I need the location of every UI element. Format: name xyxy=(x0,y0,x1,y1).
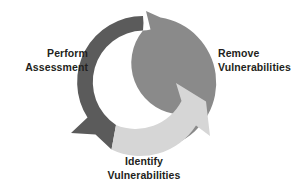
label-identify-vulnerabilities: Identify Vulnerabilities xyxy=(88,155,200,182)
label-remove-vulnerabilities-line2: Vulnerabilities xyxy=(218,61,304,75)
label-remove-vulnerabilities: Remove Vulnerabilities xyxy=(218,47,304,74)
label-perform-assessment-line2: Assessment xyxy=(4,61,88,75)
label-perform-assessment-line1: Perform xyxy=(4,47,88,61)
label-identify-vulnerabilities-line2: Vulnerabilities xyxy=(88,169,200,183)
label-identify-vulnerabilities-line1: Identify xyxy=(88,155,200,169)
label-perform-assessment: Perform Assessment xyxy=(4,47,88,74)
label-remove-vulnerabilities-line1: Remove xyxy=(218,47,304,61)
diagram-canvas: Perform Assessment Remove Vulnerabilitie… xyxy=(0,0,305,188)
